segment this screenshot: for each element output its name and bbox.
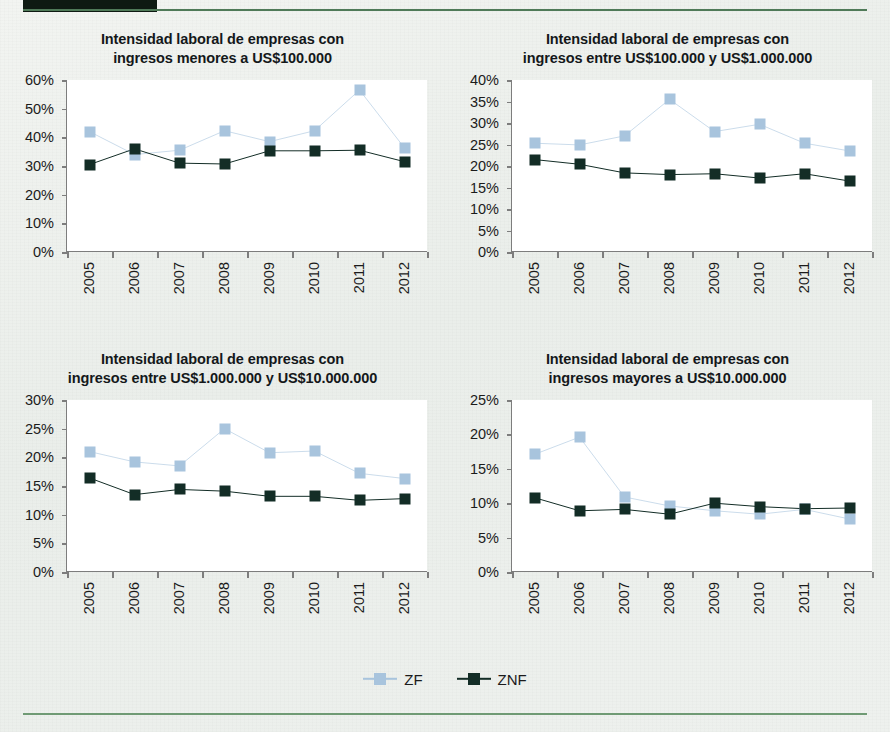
y-tick-label: 30% — [25, 393, 54, 408]
y-tick — [62, 486, 67, 488]
data-point-zf — [174, 460, 185, 471]
data-point-znf — [709, 168, 720, 179]
legend-key-znf — [457, 672, 491, 686]
data-point-zf — [219, 125, 230, 136]
x-tick — [427, 572, 429, 578]
y-tick — [62, 457, 67, 459]
y-tick — [62, 543, 67, 545]
data-point-znf — [84, 472, 95, 483]
y-tick — [62, 137, 67, 139]
data-point-znf — [219, 158, 230, 169]
plot-wrapper: 0%5%10%15%20%25% 20052006200720082009201… — [511, 400, 872, 572]
x-tick-label: 2007 — [172, 262, 187, 294]
y-tick-label: 10% — [25, 216, 54, 231]
data-point-zf — [399, 473, 410, 484]
data-point-znf — [799, 168, 810, 179]
x-tick-label: 2007 — [617, 262, 632, 294]
y-tick-label: 30% — [470, 116, 499, 131]
y-tick — [62, 80, 67, 82]
y-tick — [62, 515, 67, 517]
y-tick — [507, 209, 512, 211]
plot-wrapper: 0%5%10%15%20%25%30%35%40% 20052006200720… — [511, 80, 872, 252]
y-tick-label: 0% — [478, 245, 499, 260]
x-tick-label: 2011 — [797, 582, 812, 613]
x-tick-label: 2011 — [797, 262, 812, 293]
legend-key-zf — [363, 672, 397, 686]
y-tick-label: 15% — [25, 479, 54, 494]
data-point-znf — [129, 489, 140, 500]
legend-label-znf: ZNF — [498, 671, 527, 688]
x-tick-label: 2008 — [662, 262, 677, 294]
x-tick-label: 2009 — [262, 262, 277, 294]
x-tick-label: 2007 — [172, 582, 187, 614]
y-tick-label: 5% — [478, 223, 499, 238]
x-tick-label: 2012 — [842, 582, 857, 614]
x-tick-label: 2005 — [526, 262, 541, 294]
y-tick-label: 20% — [25, 450, 54, 465]
x-tick-label: 2011 — [352, 262, 367, 293]
data-point-znf — [619, 504, 630, 515]
data-point-znf — [844, 176, 855, 187]
y-tick-label: 10% — [470, 202, 499, 217]
x-tick-label: 2008 — [217, 262, 232, 294]
data-point-znf — [574, 159, 585, 170]
y-tick — [507, 80, 512, 82]
chart-title-line-2: ingresos entre US$100.000 y US$1.000.000 — [471, 49, 864, 68]
data-point-znf — [309, 145, 320, 156]
data-point-zf — [309, 446, 320, 457]
x-tick-label: 2006 — [126, 262, 141, 294]
x-tick-label: 2009 — [707, 582, 722, 614]
x-tick-label: 2005 — [526, 582, 541, 614]
chart-title: Intensidad laboral de empresas con ingre… — [0, 350, 445, 388]
x-axis-labels: 20052006200720082009201020112012 — [511, 572, 872, 652]
y-tick — [507, 188, 512, 190]
y-tick — [507, 231, 512, 233]
data-point-zf — [529, 138, 540, 149]
plot-area — [511, 80, 872, 252]
data-point-znf — [844, 503, 855, 514]
x-tick-label: 2005 — [81, 262, 96, 294]
x-axis-labels: 20052006200720082009201020112012 — [66, 252, 427, 332]
y-tick-label: 25% — [25, 421, 54, 436]
y-tick — [62, 400, 67, 402]
y-tick — [62, 166, 67, 168]
y-tick-label: 30% — [25, 159, 54, 174]
y-tick — [62, 223, 67, 225]
y-axis-labels: 0%5%10%15%20%25%30% — [4, 400, 60, 572]
y-tick — [507, 503, 512, 505]
legend-item-zf: ZF — [363, 671, 422, 688]
x-tick — [872, 252, 874, 258]
legend-marker-znf — [468, 673, 480, 685]
series-layer — [512, 400, 872, 572]
data-point-znf — [174, 158, 185, 169]
x-tick-label: 2006 — [126, 582, 141, 614]
data-point-zf — [844, 145, 855, 156]
y-tick-label: 10% — [470, 496, 499, 511]
x-tick-label: 2011 — [352, 582, 367, 613]
chart-title-line-1: Intensidad laboral de empresas con — [471, 30, 864, 49]
data-point-znf — [799, 503, 810, 514]
x-tick — [872, 572, 874, 578]
data-point-znf — [664, 169, 675, 180]
x-tick-label: 2010 — [307, 262, 322, 294]
x-tick-label: 2010 — [307, 582, 322, 614]
y-tick — [507, 469, 512, 471]
data-point-znf — [399, 493, 410, 504]
y-tick-label: 15% — [470, 462, 499, 477]
plot-area — [511, 400, 872, 572]
x-tick-label: 2006 — [571, 262, 586, 294]
chart-title-line-2: ingresos entre US$1.000.000 y US$10.000.… — [26, 369, 419, 388]
chart-title: Intensidad laboral de empresas con ingre… — [0, 30, 445, 68]
footer-green-rule — [23, 713, 867, 715]
x-tick-label: 2012 — [397, 582, 412, 614]
data-point-znf — [754, 173, 765, 184]
x-tick-label: 2007 — [617, 582, 632, 614]
y-tick — [507, 145, 512, 147]
series-layer — [67, 400, 427, 572]
legend-marker-zf — [374, 673, 386, 685]
chart-panel-bottom-left: Intensidad laboral de empresas con ingre… — [0, 338, 445, 658]
chart-title-line-2: ingresos mayores a US$10.000.000 — [471, 369, 864, 388]
y-tick — [507, 123, 512, 125]
y-tick — [507, 538, 512, 540]
y-axis-labels: 0%5%10%15%20%25%30%35%40% — [449, 80, 505, 252]
